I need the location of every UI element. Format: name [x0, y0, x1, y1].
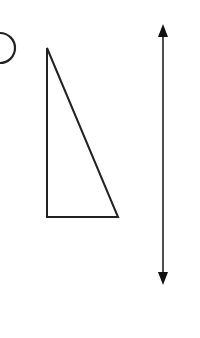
- arrow-up-icon: [158, 24, 168, 37]
- diagram-canvas: [0, 0, 200, 338]
- arrow-down-icon: [158, 272, 168, 285]
- partial-circle-edge: [0, 33, 15, 63]
- right-triangle: [47, 48, 118, 217]
- double-headed-arrow: [158, 24, 168, 285]
